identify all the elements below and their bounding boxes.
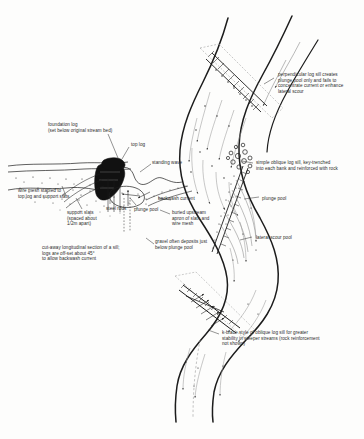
caption-cut-away-section: cut-away longitudinal section of a sill;…: [42, 245, 120, 262]
label-perpendicular-log-sill: perpendicular log sill creates plunge po…: [278, 72, 343, 94]
water-surface-standing-wave: [122, 167, 182, 184]
diagram-canvas: foundation log (set below original strea…: [0, 0, 364, 439]
label-oblique-log-sill: simple oblique log sill, key-trenched in…: [256, 160, 338, 171]
label-foundation-log: foundation log (set below original strea…: [48, 122, 112, 133]
label-wire-mesh: wire mesh stapled to top log and support…: [18, 188, 69, 199]
thalweg-dashed: [193, 340, 200, 418]
stream-right-bank-outer: [267, 40, 318, 152]
label-steel-rods: steel rods: [106, 206, 126, 212]
label-standing-wave: standing wave: [152, 160, 182, 166]
leader-lines: [62, 78, 274, 334]
label-plunge-pool-right: plunge pool: [262, 196, 286, 202]
perpendicular-log-sill: [200, 44, 283, 118]
label-lateral-scour-pool: lateral scour pool: [256, 235, 292, 241]
scour-contours: [220, 180, 256, 264]
label-top-log: top log: [131, 142, 145, 148]
label-backwash-current: backwash current: [158, 196, 195, 202]
label-k-brace-log-sill: k-brace style of oblique log sill for gr…: [222, 330, 320, 347]
label-gravel-deposit: gravel often deposits just below plunge …: [155, 239, 207, 250]
label-buried-apron: buried upstream apron of slats and wire …: [172, 210, 209, 227]
foundation-and-top-log: [95, 158, 125, 200]
label-support-slats: support slats (spaced about 1/2m apart): [67, 210, 97, 227]
sill-scour-dots-upper: [215, 69, 252, 106]
label-plunge-pool-left: plunge pool: [134, 207, 158, 213]
